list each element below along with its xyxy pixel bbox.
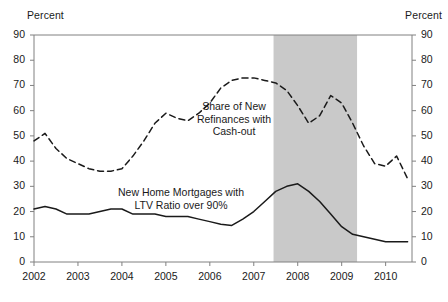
series-annotation-refinances: Share of New Refinances with Cash-out <box>186 100 282 138</box>
y-tick-60: 60 <box>421 104 443 116</box>
chart-figure: Percent Percent 0102030405060708090 0102… <box>0 0 448 302</box>
x-tick-2007: 2007 <box>232 270 276 282</box>
y-tick-90: 90 <box>3 28 25 40</box>
x-tick-2003: 2003 <box>56 270 100 282</box>
y-tick-20: 20 <box>3 205 25 217</box>
y-tick-40: 40 <box>3 154 25 166</box>
y-tick-30: 30 <box>3 179 25 191</box>
y-tick-90: 90 <box>421 28 443 40</box>
y-tick-60: 60 <box>3 104 25 116</box>
x-tick-2002: 2002 <box>12 270 56 282</box>
y-tick-30: 30 <box>421 179 443 191</box>
y-tick-70: 70 <box>421 78 443 90</box>
axis-lines-layer <box>30 35 416 266</box>
y-tick-50: 50 <box>3 129 25 141</box>
y-tick-80: 80 <box>421 53 443 65</box>
y-tick-10: 10 <box>3 230 25 242</box>
x-tick-2004: 2004 <box>100 270 144 282</box>
y-tick-10: 10 <box>421 230 443 242</box>
y-tick-0: 0 <box>421 255 443 267</box>
y-tick-20: 20 <box>421 205 443 217</box>
x-tick-2005: 2005 <box>144 270 188 282</box>
y-tick-70: 70 <box>3 78 25 90</box>
series-annotation-ltv: New Home Mortgages with LTV Ratio over 9… <box>112 186 250 211</box>
x-tick-2006: 2006 <box>188 270 232 282</box>
x-tick-2010: 2010 <box>364 270 408 282</box>
y-tick-0: 0 <box>3 255 25 267</box>
x-tick-2008: 2008 <box>276 270 320 282</box>
y-tick-40: 40 <box>421 154 443 166</box>
x-tick-2009: 2009 <box>320 270 364 282</box>
y-tick-50: 50 <box>421 129 443 141</box>
y-tick-80: 80 <box>3 53 25 65</box>
plot-canvas <box>0 0 448 302</box>
